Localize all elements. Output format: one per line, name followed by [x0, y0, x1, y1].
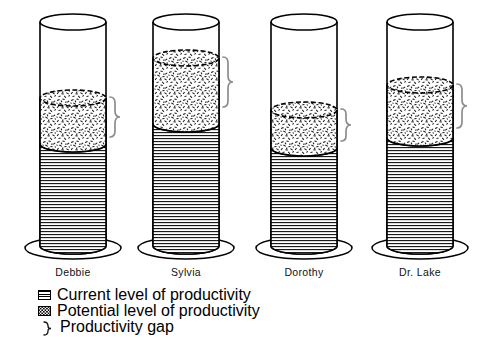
cylinder-label-debbie: Debbie [55, 266, 90, 278]
figure-canvas: Debbie Sylvia [0, 0, 489, 347]
current-level-band [387, 138, 453, 254]
cylinder-label-dorothy: Dorothy [284, 266, 324, 278]
productivity-gap-brace [110, 97, 120, 137]
legend-label-gap: Productivity gap [60, 318, 174, 336]
current-level-band [271, 148, 337, 254]
cylinder-label-dr-lake: Dr. Lake [399, 266, 441, 278]
potential-level-surface [387, 77, 453, 93]
brace-icon [41, 321, 54, 334]
current-level-band [153, 124, 219, 254]
potential-level-surface [40, 90, 106, 106]
cylinder-dorothy[interactable]: Dorothy [256, 14, 352, 278]
cylinder-label-sylvia: Sylvia [171, 266, 201, 278]
productivity-gap-brace [341, 109, 351, 141]
productivity-gap-brace [457, 84, 467, 128]
current-level-band [40, 144, 106, 254]
hatch-swatch-icon [38, 290, 51, 300]
cylinder-sylvia[interactable]: Sylvia [138, 14, 234, 278]
productivity-gap-brace [223, 57, 233, 107]
potential-level-band [387, 85, 453, 146]
potential-level-surface [153, 50, 219, 66]
stipple-swatch-icon [38, 306, 51, 316]
cylinder-debbie[interactable]: Debbie [25, 14, 121, 278]
potential-level-band [40, 98, 106, 152]
cylinder-dr-lake[interactable]: Dr. Lake [372, 14, 468, 278]
legend-item-gap[interactable]: Productivity gap [41, 318, 174, 336]
potential-level-band [153, 58, 219, 132]
potential-level-surface [271, 102, 337, 118]
